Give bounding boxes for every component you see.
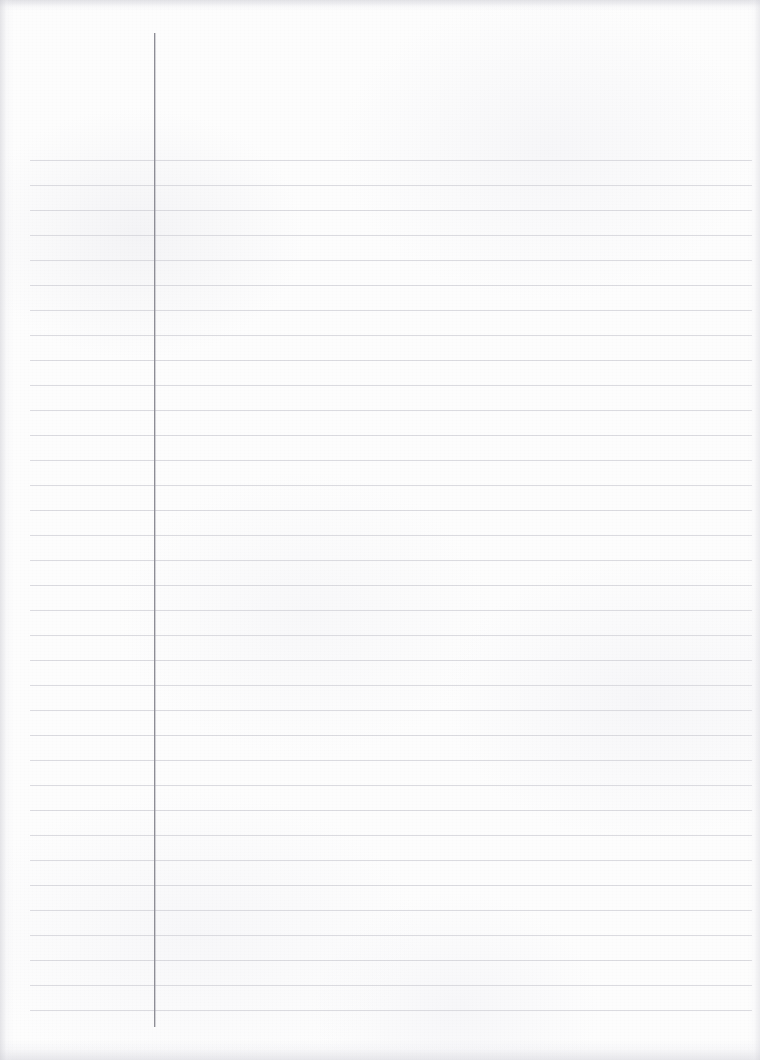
page-edge-top-shadow: [0, 0, 760, 12]
notebook-page: [0, 0, 760, 1060]
page-edge-left-shadow: [0, 0, 14, 1060]
writing-area[interactable]: [160, 40, 750, 1020]
left-margin-rule: [154, 33, 155, 1027]
page-edge-bottom-shadow: [0, 1042, 760, 1060]
